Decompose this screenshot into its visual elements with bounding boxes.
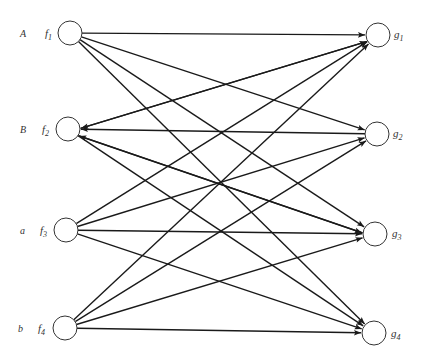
node-g1: g1: [366, 23, 404, 47]
bipartite-graph: A f1 B f2 a f3 b f4 g1 g2 g3: [0, 0, 424, 361]
row-label: A: [19, 28, 27, 39]
node-label: f2: [42, 123, 49, 138]
node-f3: a f3: [20, 218, 78, 242]
node-label: f3: [40, 224, 47, 239]
row-label: B: [20, 124, 26, 135]
node-label: g3: [392, 227, 402, 242]
edges-layer: [74, 33, 369, 333]
edge-f1-to-g2: [81, 37, 364, 130]
row-label: a: [20, 225, 25, 236]
node-g4: g4: [362, 321, 401, 345]
node-label: f4: [38, 322, 45, 337]
node-g2: g2: [365, 122, 403, 146]
edge-f1-to-g1: [82, 33, 365, 35]
row-label: b: [18, 323, 23, 334]
nodes-layer: A f1 B f2 a f3 b f4 g1 g2 g3: [18, 21, 404, 345]
node-circle: [365, 122, 389, 146]
node-circle: [362, 321, 386, 345]
node-f2: B f2: [20, 117, 80, 141]
node-circle: [56, 117, 80, 141]
node-g3: g3: [363, 222, 402, 246]
edge-f4-to-g3: [77, 238, 363, 325]
node-circle: [53, 316, 77, 340]
edge-f2-to-g3: [78, 136, 361, 233]
node-label: g1: [394, 28, 404, 43]
node-f4: b f4: [18, 316, 77, 340]
node-f1: A f1: [19, 21, 82, 45]
node-circle: [58, 21, 82, 45]
edge-f4-to-g4: [77, 328, 361, 333]
node-label: g2: [393, 127, 403, 142]
node-circle: [363, 222, 387, 246]
node-label: f1: [45, 27, 52, 42]
node-circle: [366, 23, 390, 47]
node-label: g4: [391, 327, 401, 342]
node-circle: [54, 218, 78, 242]
